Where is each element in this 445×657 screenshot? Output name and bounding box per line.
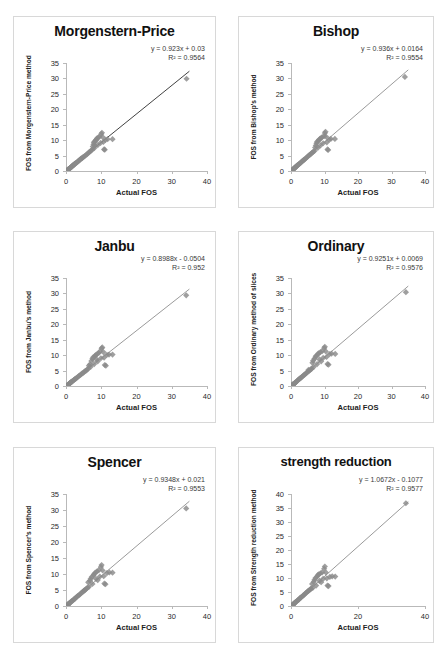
x-axis-tick [358,171,359,174]
regression-annotation: y = 0.9348x + 0.021R² = 0.9553 [143,475,205,494]
x-axis-tick-label: 10 [97,392,105,401]
plot-area [291,63,425,171]
regression-equation: y = 0.9251x + 0.0069 [357,254,423,263]
y-axis-tick-label: 25 [276,304,284,313]
x-axis-title: Actual FOS [291,623,425,632]
regression-equation: y = 0.8988x - 0.0504 [141,254,205,263]
y-axis-tick-label: 25 [51,89,59,98]
x-axis-tick [291,606,292,609]
y-axis-tick-label: 20 [276,320,284,329]
x-axis-tick-label: 20 [354,177,362,186]
x-axis-tick [172,171,173,174]
x-axis-tick [172,386,173,389]
x-axis-tick-label: 20 [132,612,140,621]
regression-annotation: y = 1.0672x - 0.1077R² = 0.9577 [359,475,423,494]
y-axis-tick-label: 0 [55,602,59,611]
y-axis-tick-label: 20 [51,105,59,114]
x-axis-tick-label: 30 [168,612,176,621]
y-axis-tick-label: 30 [51,289,59,298]
plot-area [66,494,207,606]
y-axis-tick-label: 5 [280,151,284,160]
y-axis-title: FOS from Ordinary method of slices [250,278,257,386]
x-axis-tick-label: 20 [132,392,140,401]
y-axis-title: FOS from Spencer's method [25,494,32,606]
y-axis-tick-label: 35 [51,490,59,499]
regression-annotation: y = 0.8988x - 0.0504R² = 0.952 [141,254,205,273]
x-axis-tick-label: 0 [64,177,68,186]
y-axis-tick-label: 5 [280,366,284,375]
scatter-layer [291,63,425,171]
y-axis-tick-label: 25 [51,304,59,313]
y-axis-tick-label: 15 [276,120,284,129]
data-point-marker [183,505,189,511]
x-axis-tick-label: 10 [97,612,105,621]
chart-title: Janbu [14,238,215,254]
data-point-marker [102,147,108,153]
y-axis-tick-label: 15 [51,335,59,344]
x-axis-tick-label: 10 [320,177,328,186]
figure-grid: Morgenstern-Pricey = 0.923x + 0.03R² = 0… [0,0,445,657]
regression-equation: y = 0.936x + 0.0164 [361,44,423,53]
regression-annotation: y = 0.923x + 0.03R² = 0.9564 [151,44,205,63]
plot-area [291,494,425,606]
plot-area [66,63,207,171]
x-axis-tick-label: 30 [387,177,395,186]
regression-equation: y = 0.9348x + 0.021 [143,475,205,484]
x-axis-tick [358,606,359,609]
data-point-marker [332,351,338,357]
x-axis-title: Actual FOS [291,403,425,412]
y-axis-tick-label: 0 [280,602,284,611]
x-axis-title: Actual FOS [291,188,425,197]
y-axis-tick-label: 20 [276,546,284,555]
y-axis-tick-label: 20 [51,320,59,329]
y-axis-tick-label: 5 [55,586,59,595]
y-axis-tick-label: 0 [55,382,59,391]
regression-equation: y = 0.923x + 0.03 [151,44,205,53]
y-axis-tick-label: 5 [55,151,59,160]
plot-area [66,278,207,386]
x-axis-tick [425,606,426,609]
x-axis-tick-label: 40 [421,392,429,401]
x-axis-tick [66,606,67,609]
scatter-layer [291,494,425,606]
chart-title: Spencer [14,454,215,470]
scatter-layer [66,63,207,171]
y-axis-tick-label: 25 [51,522,59,531]
x-axis-tick [291,171,292,174]
r-squared-value: R² = 0.9577 [359,484,423,493]
y-axis-tick-label: 20 [276,105,284,114]
y-axis-tick-label: 10 [276,351,284,360]
x-axis-title: Actual FOS [66,623,207,632]
x-axis-title: Actual FOS [66,403,207,412]
regression-equation: y = 1.0672x - 0.1077 [359,475,423,484]
chart-panel-ordinary: Ordinaryy = 0.9251x + 0.0069R² = 0.95760… [238,231,434,423]
chart-title: Morgenstern-Price [14,23,215,39]
x-axis-tick-label: 40 [203,392,211,401]
x-axis-tick-label: 20 [354,392,362,401]
y-axis-tick-label: 10 [51,136,59,145]
x-axis-tick [172,606,173,609]
x-axis-tick-label: 30 [168,392,176,401]
y-axis-title: FOS from Bishop's method [250,63,257,171]
x-axis-tick [425,171,426,174]
y-axis-tick-label: 35 [51,59,59,68]
x-axis-tick-label: 0 [289,392,293,401]
x-axis-title: Actual FOS [66,188,207,197]
x-axis-tick-label: 0 [289,612,293,621]
chart-panel-strength-reduction: strength reductiony = 1.0672x - 0.1077R²… [238,447,434,643]
chart-panel-spencer: Spencery = 0.9348x + 0.021R² = 0.9553051… [13,447,216,643]
data-point-marker [109,351,115,357]
chart-panel-morgenstern-price: Morgenstern-Pricey = 0.923x + 0.03R² = 0… [13,16,216,208]
chart-title: Ordinary [239,238,433,254]
chart-title: strength reduction [239,454,433,469]
y-axis-tick-label: 5 [55,366,59,375]
x-axis-tick [291,386,292,389]
y-axis-title: FOS from Strength reduction method [250,494,257,606]
r-squared-value: R² = 0.9576 [357,263,423,272]
scatter-layer [291,278,425,386]
x-axis-tick [137,606,138,609]
y-axis-tick-label: 15 [51,554,59,563]
x-axis-tick [392,171,393,174]
plot-area [291,278,425,386]
x-axis-tick [66,171,67,174]
